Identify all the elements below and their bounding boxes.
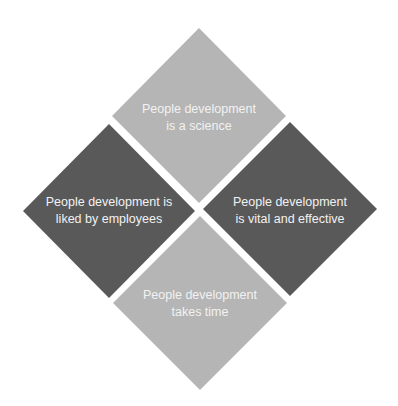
diamond-top-label: People development is a science	[142, 101, 256, 135]
diamond-right-label: People development is vital and effectiv…	[233, 194, 347, 228]
label-line-2: liked by employees	[46, 211, 172, 228]
label-line-1: People development	[142, 101, 256, 118]
label-line-1: People development	[233, 194, 347, 211]
label-line-1: People development	[143, 287, 257, 304]
label-line-2: is a science	[142, 118, 256, 135]
label-line-2: is vital and effective	[233, 211, 347, 228]
label-line-1: People development is	[46, 194, 172, 211]
diamond-left-label: People development is liked by employees	[46, 194, 172, 228]
diamond-bottom-label: People development takes time	[143, 287, 257, 321]
label-line-2: takes time	[143, 304, 257, 321]
